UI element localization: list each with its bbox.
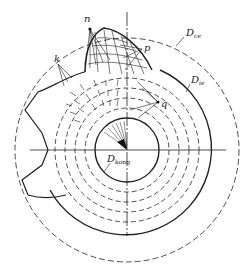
k-leader-lines (58, 64, 72, 86)
q-leader-lines (130, 82, 158, 118)
d-kong-leader (104, 163, 110, 172)
q-point (157, 101, 160, 104)
quadrant-mesh (66, 80, 118, 122)
label-p: p (144, 42, 151, 53)
center-wedge (117, 139, 127, 150)
pattern-diagram: n p k q Dce Die Dkong (0, 0, 250, 268)
petal-left-upper (25, 72, 85, 150)
d-ce-leader (176, 37, 184, 46)
label-k: k (54, 53, 60, 64)
petal-mesh (88, 30, 147, 74)
n-point (88, 27, 91, 30)
label-d-ie: Die (190, 74, 205, 86)
label-d-ce: Dce (185, 27, 201, 39)
label-n: n (84, 13, 90, 24)
label-q: q (161, 98, 167, 109)
